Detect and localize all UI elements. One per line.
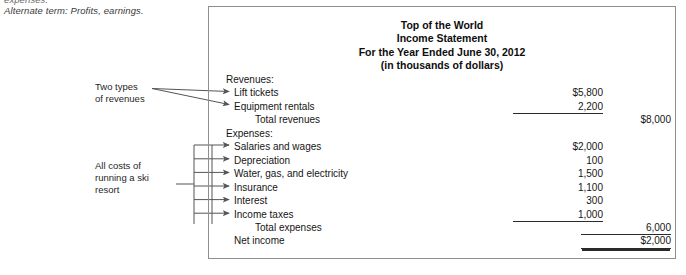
statement-row: Water, gas, and electricity1,500 — [209, 167, 675, 180]
statement-row: Depreciation100 — [209, 154, 675, 167]
row-label: Lift tickets — [234, 86, 278, 99]
statement-row: Total expenses6,000 — [209, 221, 675, 234]
row-label: Depreciation — [234, 154, 290, 167]
statement-row: Net income$2,000 — [209, 234, 675, 247]
row-amount-col1: 100 — [513, 154, 603, 167]
statement-row: Revenues: — [209, 73, 675, 86]
statement-title-line-2: Income Statement — [209, 32, 675, 45]
callout-all-costs-of-running-a-ski-resort: All costs of running a ski resort — [95, 160, 149, 195]
row-amount-col1: 2,200 — [513, 100, 603, 114]
statement-title-line-3: For the Year Ended June 30, 2012 — [209, 46, 675, 59]
row-amount-col2: $2,000 — [581, 234, 671, 248]
row-amount-col2: 6,000 — [581, 221, 671, 235]
row-label: Salaries and wages — [234, 140, 321, 153]
statement-row: Lift tickets$5,800 — [209, 86, 675, 99]
row-label: Equipment rentals — [234, 100, 315, 113]
statement-row: Total revenues$8,000 — [209, 113, 675, 126]
statement-title-line-1: Top of the World — [209, 19, 675, 32]
row-amount-col1: $2,000 — [513, 140, 603, 153]
statement-title-line-4: (in thousands of dollars) — [209, 59, 675, 72]
row-amount-col1: 1,000 — [513, 208, 603, 222]
row-amount-col1: 1,100 — [513, 181, 603, 194]
statement-row: Interest300 — [209, 194, 675, 207]
income-statement-frame: Top of the World Income Statement For th… — [208, 6, 676, 259]
row-label: Insurance — [234, 181, 278, 194]
callout-two-types-of-revenues: Two types of revenues — [95, 81, 145, 105]
row-label: Income taxes — [234, 208, 293, 221]
row-amount-col2: $8,000 — [581, 113, 671, 126]
statement-row: Expenses: — [209, 127, 675, 140]
statement-title-block: Top of the World Income Statement For th… — [209, 19, 675, 73]
row-label: Revenues: — [226, 73, 274, 86]
statement-row: Salaries and wages$2,000 — [209, 140, 675, 153]
row-amount-col1: $5,800 — [513, 86, 603, 99]
statement-row: Equipment rentals2,200 — [209, 100, 675, 113]
row-label: Interest — [234, 194, 267, 207]
statement-row: Income taxes1,000 — [209, 208, 675, 221]
row-amount-col1: 300 — [513, 194, 603, 207]
statement-row: Insurance1,100 — [209, 181, 675, 194]
row-label: Total expenses — [255, 221, 322, 234]
row-amount-col1: 1,500 — [513, 167, 603, 180]
row-label: Total revenues — [255, 113, 320, 126]
row-label: Expenses: — [226, 127, 273, 140]
row-label: Net income — [234, 234, 285, 247]
alternate-term-note: Alternate term: Profits, earnings. — [4, 5, 144, 16]
row-label: Water, gas, and electricity — [234, 167, 348, 180]
